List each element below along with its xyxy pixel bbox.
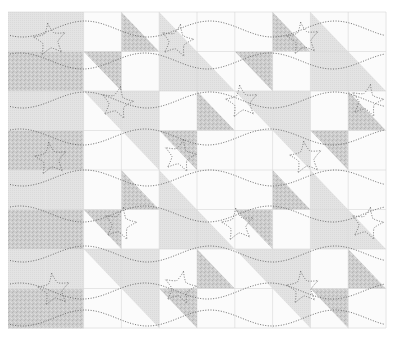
quilt-block <box>197 12 235 52</box>
block-solid <box>8 289 46 329</box>
block-solid <box>8 91 46 131</box>
quilt-block <box>235 170 273 210</box>
quilt-block <box>348 170 386 210</box>
block-solid <box>46 91 84 131</box>
block-solid <box>8 210 46 250</box>
quilt-block <box>84 170 122 210</box>
block-solid <box>46 289 84 329</box>
quilt-block <box>235 12 273 52</box>
quilt-block <box>121 210 159 250</box>
quilt-block <box>121 52 159 92</box>
block-solid <box>8 131 46 171</box>
quilt-illustration <box>0 0 396 341</box>
block-solid <box>8 52 46 92</box>
quilt-block <box>197 170 235 210</box>
block-solid <box>46 210 84 250</box>
block-solid <box>8 249 46 289</box>
block-solid <box>273 249 311 289</box>
quilt-block <box>348 131 386 171</box>
quilt-block <box>197 289 235 329</box>
block-solid <box>46 12 84 52</box>
quilt-block <box>84 289 122 329</box>
quilt-block <box>348 12 386 52</box>
quilt-block <box>159 249 197 289</box>
block-solid <box>46 170 84 210</box>
block-solid <box>46 52 84 92</box>
quilt-block <box>159 91 197 131</box>
block-solid <box>159 52 197 92</box>
quilt-block <box>197 131 235 171</box>
quilt-block <box>84 12 122 52</box>
block-solid <box>121 91 159 131</box>
block-solid <box>8 12 46 52</box>
block-solid <box>310 210 348 250</box>
block-solid <box>273 91 311 131</box>
quilt-block <box>273 52 311 92</box>
block-solid <box>159 210 197 250</box>
quilt-block <box>235 289 273 329</box>
quilt-block <box>273 210 311 250</box>
block-solid <box>46 131 84 171</box>
block-solid <box>310 52 348 92</box>
quilt-block <box>310 91 348 131</box>
block-solid <box>8 170 46 210</box>
